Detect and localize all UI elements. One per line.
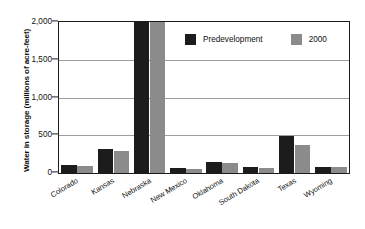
legend-label-predevelopment: Predevelopment (203, 35, 263, 44)
y-tick-label: 500 (10, 130, 52, 139)
bar (61, 165, 77, 173)
x-tick-label: Kansas (90, 176, 116, 197)
x-tick-label: South Dakota (217, 176, 261, 207)
bar (150, 22, 166, 173)
bar (222, 163, 238, 173)
bar (186, 169, 202, 173)
bar (295, 145, 311, 173)
bar (170, 168, 186, 173)
y-tick-label: 0 (10, 168, 52, 177)
bar (98, 149, 114, 173)
legend-label-2000: 2000 (309, 35, 327, 44)
legend-item-predevelopment: Predevelopment (185, 34, 263, 45)
bar (315, 167, 331, 173)
chart-legend: Predevelopment 2000 (185, 34, 327, 45)
bar-group (134, 22, 166, 173)
bar (279, 136, 295, 173)
x-tick-label: Colorado (49, 176, 80, 199)
x-tick-label: Wyoming (302, 176, 333, 200)
legend-item-2000: 2000 (291, 34, 327, 45)
y-tick-label: 2,000 (10, 17, 52, 26)
y-tick-label: 1,000 (10, 92, 52, 101)
bar (134, 22, 150, 173)
bar (206, 162, 222, 173)
bar-group (98, 22, 130, 173)
bar (331, 167, 347, 173)
x-tick-label: New Mexico (149, 176, 189, 205)
x-tick-label: Texas (276, 176, 297, 194)
bar (77, 166, 93, 173)
y-tick-label: 1,500 (10, 54, 52, 63)
bar (243, 167, 259, 173)
chart-figure: Water in storage (millions of acre-feet)… (0, 0, 365, 229)
x-tick-label: Nebraska (120, 176, 152, 200)
legend-swatch-2000 (291, 34, 302, 45)
legend-swatch-predevelopment (185, 34, 196, 45)
bar-group (61, 22, 93, 173)
bar (259, 168, 275, 173)
bar (114, 151, 130, 173)
